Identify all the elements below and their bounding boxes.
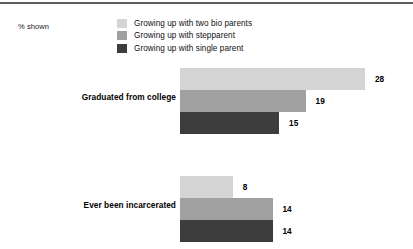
bar-row: 28 xyxy=(180,68,384,90)
bar-incarcerated-stepparent xyxy=(180,198,273,220)
bar-value-incarcerated-single-parent: 14 xyxy=(283,227,292,235)
bar-value-graduated-single-parent: 15 xyxy=(289,119,298,127)
bar-group-ever-been-incarcerated: Ever been incarcerated 8 14 14 xyxy=(0,176,413,242)
bar-incarcerated-two-bio-parents xyxy=(180,176,233,198)
bar-graduated-two-bio-parents xyxy=(180,68,365,90)
group-label-graduated-from-college: Graduated from college xyxy=(82,92,176,102)
bar-row: 14 xyxy=(180,220,292,242)
bar-group-graduated-from-college: Graduated from college 28 19 15 xyxy=(0,68,413,134)
plot-area: Graduated from college 28 19 15 Ever bee… xyxy=(0,0,413,249)
bar-value-graduated-two-bio-parents: 28 xyxy=(375,75,384,83)
bar-row: 8 xyxy=(180,176,247,198)
bar-value-graduated-stepparent: 19 xyxy=(316,97,325,105)
group-label-ever-been-incarcerated: Ever been incarcerated xyxy=(84,200,176,210)
bar-graduated-single-parent xyxy=(180,112,279,134)
bar-value-incarcerated-two-bio-parents: 8 xyxy=(243,183,248,191)
bar-row: 19 xyxy=(180,90,325,112)
bar-chart: % shown Growing up with two bio parents … xyxy=(0,0,413,249)
bar-row: 15 xyxy=(180,112,298,134)
bar-graduated-stepparent xyxy=(180,90,306,112)
bar-row: 14 xyxy=(180,198,292,220)
bar-value-incarcerated-stepparent: 14 xyxy=(283,205,292,213)
bar-incarcerated-single-parent xyxy=(180,220,273,242)
